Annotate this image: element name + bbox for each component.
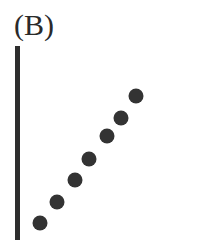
data-points xyxy=(33,89,144,231)
data-point xyxy=(68,173,83,188)
data-point xyxy=(50,195,65,210)
data-point xyxy=(114,111,129,126)
y-axis-line xyxy=(15,46,20,240)
scatter-plot xyxy=(0,0,209,240)
data-point xyxy=(100,129,115,144)
data-point xyxy=(129,89,144,104)
data-point xyxy=(82,152,97,167)
data-point xyxy=(33,216,48,231)
